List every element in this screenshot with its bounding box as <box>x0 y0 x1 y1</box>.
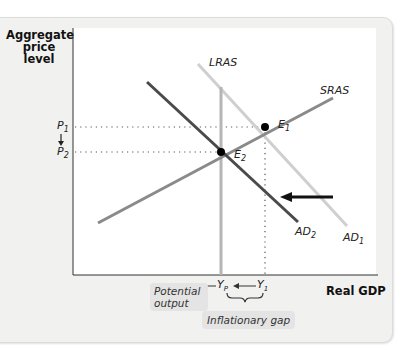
lras-label: LRAS <box>209 56 237 69</box>
p2-label: P2 <box>57 145 69 160</box>
p1-label: P1 <box>57 119 69 134</box>
yp-label: YP <box>217 278 228 293</box>
ad1-label: AD1 <box>343 231 364 246</box>
e2-point <box>217 148 225 156</box>
e2-label: E2 <box>234 148 246 163</box>
e1-point <box>261 123 269 131</box>
shift-arrow-head <box>280 192 292 202</box>
e1-label: E1 <box>278 118 290 133</box>
ad2-label: AD2 <box>295 225 316 240</box>
potential-output-tag: Potential output <box>150 283 208 311</box>
sras-curve <box>98 98 333 223</box>
inflationary-gap-brace <box>227 293 263 302</box>
sras-label: SRAS <box>320 84 349 97</box>
y1-label: Y1 <box>257 278 268 293</box>
y1-to-yp-arrow-head <box>233 283 239 289</box>
inflationary-gap-tag: Inflationary gap <box>202 311 295 329</box>
